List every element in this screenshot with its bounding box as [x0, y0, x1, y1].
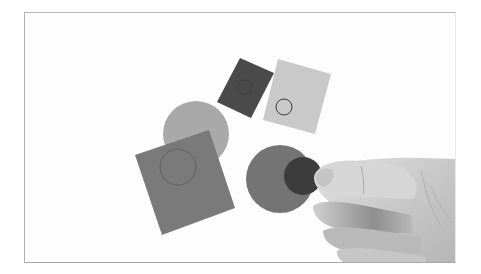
- photo-image: [25, 13, 456, 263]
- light-rectangle-with-outline-circle: [263, 59, 331, 134]
- dark-rectangle: [217, 58, 274, 118]
- hand: [313, 158, 456, 263]
- photo-frame: [24, 12, 456, 263]
